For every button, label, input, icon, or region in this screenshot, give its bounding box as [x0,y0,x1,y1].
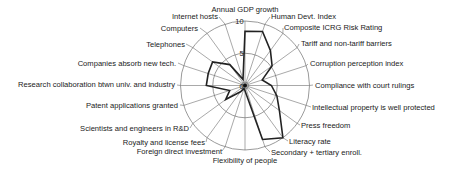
axis-label: Flexibility of people [213,156,278,165]
axis-label: Human Devt. Index [271,12,336,21]
axis-label: Annual GDP growth [212,5,279,14]
label-leader-line [283,138,288,141]
axis-label: Computers [161,24,198,33]
label-leader-line [297,123,300,125]
label-leader-line [206,138,207,142]
axis-label: Royalty and license fees [123,138,206,147]
label-leader-line [306,64,308,66]
label-leader-line [222,147,225,151]
axis-label: Press freedom [301,121,350,130]
tick-label: 5 [239,49,243,58]
axis-spoke [245,24,265,85]
label-leader-line [200,28,207,33]
label-leader-line [177,85,181,86]
axis-label: Intellectual property is well protected [312,103,435,112]
axis-label: Secondary + tertiary enroll. [271,148,362,157]
axis-spoke [245,86,283,138]
label-leader-line [178,63,184,66]
axis-spoke [207,33,245,85]
radar-chart: Annual GDP growthHuman Devt. IndexCompos… [0,0,456,174]
axis-label: Corruption perception index [310,59,403,68]
axis-label: Patent applications granted [86,101,178,110]
axis-label: Foreign direct investment [137,147,223,156]
axis-label: Literacy rate [289,137,331,146]
axis-label: Telephones [146,40,185,49]
label-leader-line [265,147,270,152]
axis-label: Internet hosts [172,12,218,21]
axis-spoke [207,86,245,138]
axis-label: Research collaboration btwn univ. and in… [18,80,175,89]
label-leader-line [310,85,314,86]
axis-spoke [245,86,297,124]
axis-spoke [245,66,306,86]
label-leader-line [306,105,311,107]
axis-label: Composite ICRG Risk Rating [284,23,382,32]
axis-label: Tariff and non-tariff barriers [301,39,392,48]
axis-spoke [184,66,245,86]
axis-spoke [184,86,245,106]
center-point [243,84,247,88]
axis-label: Compliance with court rulings [315,81,414,90]
axis-label: Companies absorb new tech. [78,59,176,68]
tick-label: 0 [239,82,243,91]
label-leader-line [297,44,299,48]
axis-spoke [193,86,245,124]
tick-label: 10 [235,17,243,26]
label-leader-line [190,123,193,128]
label-leader-line [186,44,193,48]
label-leader-line [219,17,225,24]
axis-spoke [245,86,306,106]
axis-spoke [193,48,245,86]
axis-label: Scientists and engineers in R&D [80,124,189,133]
label-leader-line [265,17,270,24]
